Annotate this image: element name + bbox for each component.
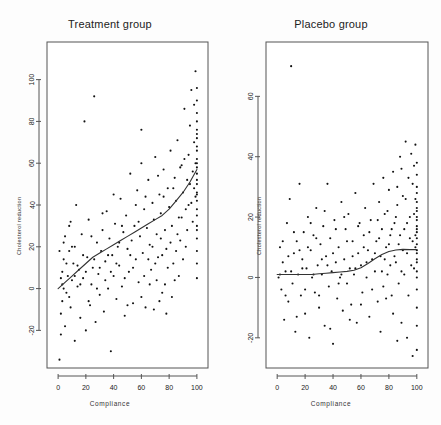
data-point xyxy=(416,186,418,188)
data-point xyxy=(406,222,408,224)
data-point xyxy=(381,270,383,272)
data-point xyxy=(196,200,198,202)
data-point xyxy=(149,283,151,285)
data-point xyxy=(410,264,412,266)
data-point xyxy=(172,187,174,189)
y-axis-title-placebo: Cholesterol reduction xyxy=(256,197,262,255)
data-point xyxy=(416,225,418,227)
data-point xyxy=(416,349,418,351)
x-tick-label: 40 xyxy=(329,384,337,391)
data-point xyxy=(186,179,188,181)
data-point xyxy=(161,254,163,256)
data-point xyxy=(378,237,380,239)
data-point xyxy=(196,179,198,181)
data-point xyxy=(181,216,183,218)
data-point xyxy=(165,313,167,315)
data-point xyxy=(335,261,337,263)
data-point xyxy=(298,183,300,185)
data-point xyxy=(183,158,185,160)
data-point xyxy=(176,233,178,235)
data-point xyxy=(104,260,106,262)
data-point xyxy=(68,296,70,298)
data-point xyxy=(324,325,326,327)
data-point xyxy=(324,210,326,212)
data-point xyxy=(283,319,285,321)
data-point xyxy=(326,183,328,185)
data-point xyxy=(196,262,198,264)
data-point xyxy=(63,288,65,290)
data-point xyxy=(349,319,351,321)
x-tick-label: 20 xyxy=(301,384,309,391)
data-point xyxy=(308,337,310,339)
data-point xyxy=(135,204,137,206)
data-point xyxy=(385,246,387,248)
data-point xyxy=(196,277,198,279)
data-point xyxy=(319,243,321,245)
data-point xyxy=(366,276,368,278)
data-point xyxy=(416,207,418,209)
data-point xyxy=(321,258,323,260)
data-point xyxy=(196,99,198,101)
data-point xyxy=(60,334,62,336)
data-point xyxy=(416,276,418,278)
data-point xyxy=(156,233,158,235)
data-point xyxy=(160,212,162,214)
data-point xyxy=(90,235,92,237)
data-point xyxy=(413,267,415,269)
data-point xyxy=(82,277,84,279)
data-point xyxy=(301,258,303,260)
x-tick-label: 20 xyxy=(82,384,90,391)
data-point xyxy=(79,283,81,285)
data-point xyxy=(318,307,320,309)
data-point xyxy=(416,210,418,212)
data-point xyxy=(287,301,289,303)
data-point xyxy=(357,252,359,254)
data-point xyxy=(167,267,169,269)
data-point xyxy=(196,166,198,168)
data-point xyxy=(64,235,66,237)
data-point xyxy=(303,231,305,233)
data-point xyxy=(108,237,110,239)
data-point xyxy=(317,264,319,266)
data-point xyxy=(352,240,354,242)
y-tick-label: 80 xyxy=(29,117,36,125)
data-point xyxy=(158,194,160,196)
y-tick-label: -20 xyxy=(248,333,255,343)
data-point xyxy=(179,239,181,241)
data-point xyxy=(132,302,134,304)
y-tick-label: 100 xyxy=(29,74,36,86)
data-point xyxy=(412,183,414,185)
data-point xyxy=(196,173,198,175)
data-point xyxy=(167,187,169,189)
data-point xyxy=(328,285,330,287)
data-point xyxy=(386,273,388,275)
data-point xyxy=(196,137,198,139)
data-point xyxy=(149,244,151,246)
data-point xyxy=(329,237,331,239)
data-point xyxy=(410,153,412,155)
data-point xyxy=(75,204,77,206)
data-point xyxy=(186,229,188,231)
data-point xyxy=(196,129,198,131)
data-point xyxy=(416,174,418,176)
data-point xyxy=(196,112,198,114)
cholesterol-compliance-figure: Treatment group 020406080100-20020406080… xyxy=(0,0,441,425)
data-point xyxy=(196,87,198,89)
data-point xyxy=(279,246,281,248)
data-point xyxy=(190,89,192,91)
data-point xyxy=(60,277,62,279)
data-point xyxy=(345,228,347,230)
y-tick-label: -20 xyxy=(29,325,36,335)
data-point xyxy=(115,262,117,264)
data-point xyxy=(85,271,87,273)
data-point xyxy=(318,295,320,297)
data-point xyxy=(405,141,407,143)
data-point xyxy=(61,271,63,273)
data-point xyxy=(107,288,109,290)
data-point xyxy=(300,295,302,297)
data-point xyxy=(93,258,95,260)
data-point xyxy=(171,296,173,298)
data-point xyxy=(154,156,156,158)
data-point xyxy=(392,313,394,315)
data-point xyxy=(368,316,370,318)
